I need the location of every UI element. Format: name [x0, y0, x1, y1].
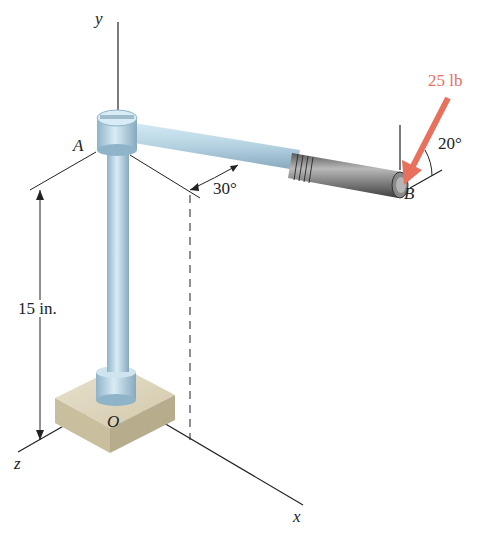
vertical-rod — [107, 150, 129, 375]
force-arrow — [412, 98, 448, 168]
y-axis-label: y — [95, 10, 103, 27]
point-b-label: B — [404, 185, 414, 202]
arm-rod — [128, 122, 300, 170]
angle-arc-20 — [425, 150, 432, 176]
point-o-label: O — [107, 413, 119, 430]
z-axis-label: z — [14, 455, 21, 472]
x-axis-label: x — [293, 508, 301, 525]
angle-30-label: 30° — [213, 180, 237, 197]
diagram-graphics — [0, 0, 481, 540]
force-label: 25 lb — [428, 72, 462, 89]
angle-20-label: 20° — [438, 135, 462, 152]
point-a-label: A — [73, 137, 83, 154]
diagram-canvas: y A B O z x 15 in. 30° 20° 25 lb — [0, 0, 481, 540]
dimension-label: 15 in. — [18, 300, 57, 317]
